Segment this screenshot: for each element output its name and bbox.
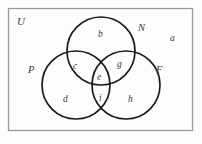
universal-set-rectangle: [9, 9, 193, 131]
venn-diagram-figure: U N P F a b c g e d i h: [0, 0, 202, 144]
region-label-a: a: [170, 34, 175, 44]
region-label-c: c: [73, 62, 77, 72]
region-label-h: h: [128, 95, 133, 105]
set-label-F: F: [156, 65, 162, 76]
region-label-b: b: [98, 30, 103, 40]
universal-set-label: U: [17, 16, 25, 27]
region-label-i: i: [99, 94, 102, 104]
region-label-d: d: [63, 95, 68, 105]
region-label-g: g: [117, 60, 122, 70]
region-label-e: e: [97, 73, 101, 83]
set-label-N: N: [138, 23, 145, 34]
set-label-P: P: [28, 65, 34, 76]
